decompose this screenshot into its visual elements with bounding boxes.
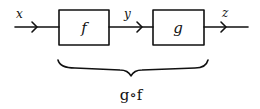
output-label: z bbox=[221, 6, 229, 20]
function-composition-diagram: x f y g z g∘f bbox=[0, 0, 260, 109]
block-f-label: f bbox=[80, 19, 89, 37]
intermediate-label: y bbox=[123, 7, 131, 21]
composition-label: g∘f bbox=[120, 86, 144, 104]
curly-brace-icon bbox=[58, 60, 208, 76]
block-g-label: g bbox=[173, 19, 183, 37]
input-label: x bbox=[16, 7, 23, 21]
